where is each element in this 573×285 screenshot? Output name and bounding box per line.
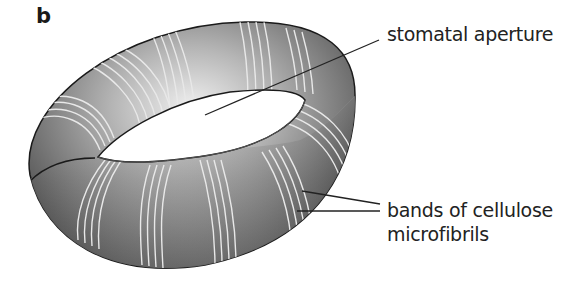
torus-body <box>20 22 360 285</box>
cellulose-bands-label: bands of cellulose microfibrils <box>387 198 553 246</box>
cellulose-bands-label-line2: microfibrils <box>387 222 553 246</box>
cellulose-bands-label-line1: bands of cellulose <box>387 198 553 222</box>
stomatal-aperture-label: stomatal aperture <box>387 22 553 46</box>
